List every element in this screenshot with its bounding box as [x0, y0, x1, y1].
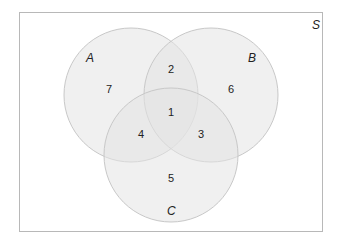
region-b-c: 3: [198, 128, 204, 140]
region-a-only: 7: [106, 83, 112, 95]
region-a-b: 2: [168, 63, 174, 75]
universe-label: S: [312, 18, 320, 32]
region-b-only: 6: [228, 83, 234, 95]
region-c-only: 5: [168, 172, 174, 184]
venn-diagram: S A B C 7 2 6 1 4 3 5: [0, 0, 338, 245]
region-a-b-c: 1: [168, 106, 174, 118]
set-label-c: C: [167, 204, 176, 218]
set-label-a: A: [85, 51, 94, 65]
region-a-c: 4: [138, 128, 144, 140]
set-label-b: B: [248, 51, 256, 65]
